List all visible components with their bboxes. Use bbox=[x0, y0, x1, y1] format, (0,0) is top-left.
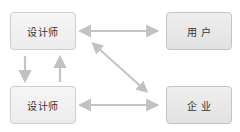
node-label: 企 业 bbox=[187, 98, 212, 113]
node-label: 用 户 bbox=[187, 24, 212, 39]
node-designer-bottom: 设计师 bbox=[10, 86, 76, 124]
node-user: 用 户 bbox=[166, 12, 232, 50]
node-label: 设计师 bbox=[27, 98, 59, 113]
arrow-diagonal-designer-enterprise bbox=[98, 48, 146, 91]
node-enterprise: 企 业 bbox=[166, 86, 232, 124]
node-label: 设计师 bbox=[27, 24, 59, 39]
node-designer-top: 设计师 bbox=[10, 12, 76, 50]
